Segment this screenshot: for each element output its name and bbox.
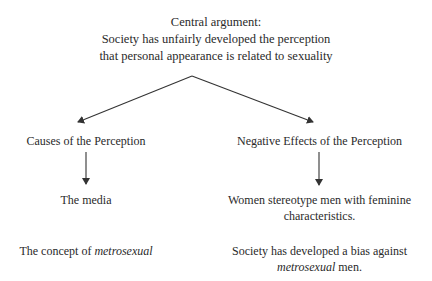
effect-stereotype-line-1: Women stereotype men with feminine xyxy=(212,192,427,208)
effect-stereotype: Women stereotype men with feminine chara… xyxy=(212,192,427,224)
effect-bias-term: metrosexual xyxy=(277,260,335,274)
effect-stereotype-line-2: characteristics. xyxy=(212,208,427,224)
causes-title: Causes of the Perception xyxy=(0,133,172,149)
cause-metrosexual-concept: The concept of metrosexual xyxy=(0,243,172,259)
effect-bias: Society has developed a bias against met… xyxy=(212,243,427,275)
cause-media: The media xyxy=(0,192,172,208)
effect-bias-line-2: metrosexual men. xyxy=(212,259,427,275)
effect-bias-suffix: men. xyxy=(335,260,362,274)
effects-title: Negative Effects of the Perception xyxy=(230,133,409,149)
cause-concept-prefix: The concept of xyxy=(19,244,94,258)
cause-concept-term: metrosexual xyxy=(94,244,152,258)
effect-bias-line-1: Society has developed a bias against xyxy=(212,243,427,259)
arrow-to-effects xyxy=(192,76,313,122)
arrow-to-causes xyxy=(78,76,192,122)
